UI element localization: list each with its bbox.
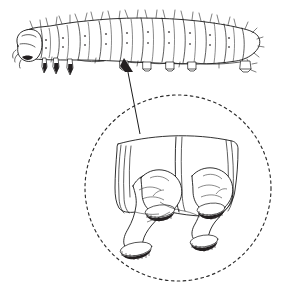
larva-lateral-view (13, 10, 264, 75)
thoracic-legs (42, 58, 73, 75)
larva-body-outline (17, 18, 259, 64)
magnified-proleg-detail (115, 136, 238, 262)
proleg-left-far (141, 170, 182, 223)
callout-leader (120, 58, 140, 134)
proleg-right-far (192, 168, 233, 221)
head-capsule (13, 29, 42, 68)
leader-line (126, 62, 140, 134)
anal-proleg (240, 61, 257, 72)
figure-root: Lepidopteran caterpillar (larva), latera… (0, 0, 301, 299)
caterpillar-proleg-figure (0, 0, 301, 299)
